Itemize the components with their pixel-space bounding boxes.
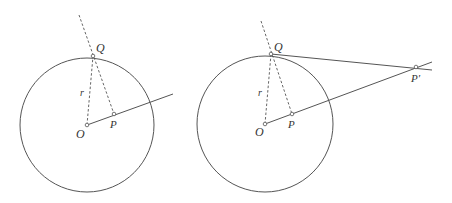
label-p-left: P: [109, 118, 117, 130]
label-o-left: O: [76, 127, 85, 141]
label-p-right: P: [287, 118, 295, 130]
dashed-line-through-q-right: [261, 21, 292, 114]
point-p-left: [112, 112, 116, 116]
point-o-left: [85, 123, 89, 127]
label-q-right: Q: [274, 40, 283, 54]
point-q-left: [91, 54, 95, 58]
label-r-right: r: [258, 87, 262, 98]
radius-line-right: [265, 54, 271, 124]
left-figure: Q r O P: [20, 15, 173, 192]
label-q-left: Q: [96, 41, 105, 55]
label-r-left: r: [80, 87, 84, 98]
point-p-right: [290, 112, 294, 116]
label-p-prime: P′: [410, 72, 421, 84]
point-p-prime: [414, 65, 418, 69]
right-figure: Q r O P P′: [197, 21, 432, 192]
point-q-right: [269, 52, 273, 56]
dashed-line-through-q-left: [79, 15, 114, 114]
point-o-right: [263, 122, 267, 126]
tangent-qp-prime: [271, 54, 432, 70]
radius-line-left: [87, 56, 93, 125]
inversion-diagram: Q r O P Q r O P P′: [0, 0, 452, 203]
label-o-right: O: [255, 125, 264, 139]
ray-op-left: [87, 94, 173, 125]
